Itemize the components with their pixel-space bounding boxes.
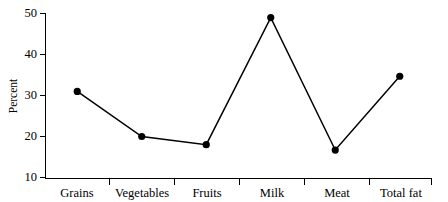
chart-canvas: 50 40 30 20 10 Percent Grains Vegetables…: [0, 0, 448, 202]
y-tick-label-30: 30: [25, 88, 38, 102]
x-tick-label-meat: Meat: [324, 186, 350, 200]
data-point-total-fat: [396, 73, 403, 80]
data-point-fruits: [203, 141, 210, 148]
y-tick-label-40: 40: [25, 47, 38, 61]
y-tick-label-10: 10: [25, 170, 38, 184]
y-tick-label-20: 20: [25, 129, 38, 143]
x-tick-label-fruits: Fruits: [192, 186, 221, 200]
line-chart: 50 40 30 20 10 Percent Grains Vegetables…: [0, 0, 448, 202]
data-point-grains: [74, 88, 81, 95]
x-tick-label-milk: Milk: [260, 186, 285, 200]
y-tick-label-50: 50: [25, 6, 38, 20]
x-tick-label-vegetables: Vegetables: [115, 186, 169, 200]
chart-background: [0, 0, 448, 202]
data-point-milk: [267, 14, 274, 21]
x-tick-label-total-fat: Total fat: [380, 186, 422, 200]
x-tick-label-grains: Grains: [60, 186, 93, 200]
data-point-vegetables: [138, 133, 145, 140]
y-axis-title: Percent: [7, 78, 19, 113]
data-point-meat: [332, 146, 339, 153]
